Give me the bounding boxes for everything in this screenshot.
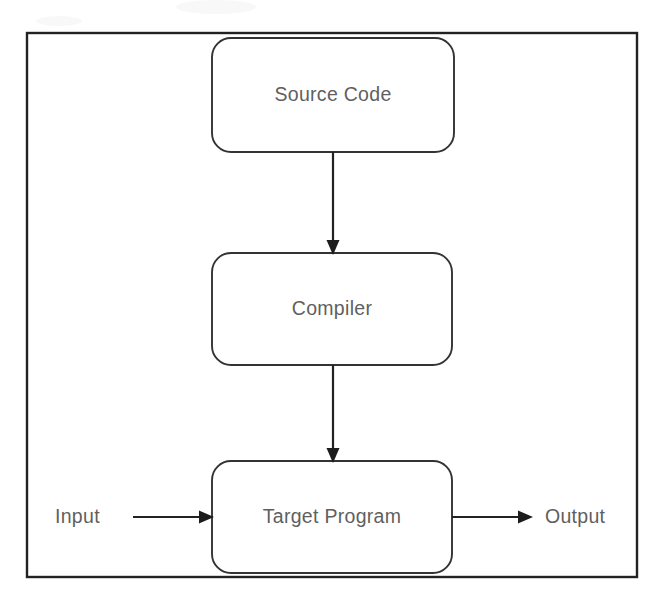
node-compiler-label: Compiler <box>292 297 373 319</box>
connector-target-to-output <box>452 511 533 524</box>
diagram-canvas: Source Code Compiler Target Program <box>0 0 661 611</box>
node-source-code-label: Source Code <box>274 83 391 105</box>
io-label-output: Output <box>545 505 606 527</box>
node-target-program: Target Program <box>212 461 452 573</box>
node-compiler: Compiler <box>212 253 452 365</box>
node-target-program-label: Target Program <box>263 505 402 527</box>
compiler-flow-diagram: Source Code Compiler Target Program <box>0 0 661 611</box>
connector-compiler-to-target <box>327 365 340 463</box>
connector-source-to-compiler <box>327 152 340 255</box>
arrow-head-right-target-to-output <box>518 511 533 524</box>
io-label-input: Input <box>55 505 100 527</box>
node-source-code: Source Code <box>212 38 454 152</box>
connector-input-to-target <box>133 511 214 524</box>
